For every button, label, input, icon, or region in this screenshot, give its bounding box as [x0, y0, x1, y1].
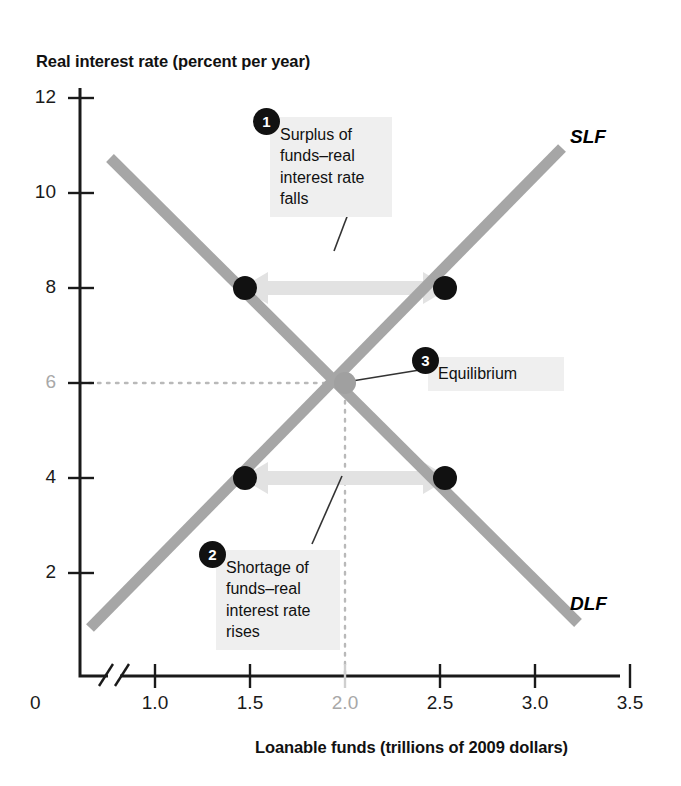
y-tick-label-2: 2 — [22, 561, 56, 583]
data-point-slf-8 — [433, 276, 457, 300]
axis-corner — [80, 652, 108, 676]
callout-badge-1: 1 — [253, 108, 280, 135]
loanable-funds-figure: Real interest rate (percent per year) Lo… — [0, 0, 681, 786]
callout-badge-3: 3 — [412, 347, 439, 374]
callout-equilibrium: Equilibrium — [428, 357, 564, 391]
y-tick-label-12: 12 — [22, 86, 56, 108]
data-point-equilibrium — [334, 372, 356, 394]
x-tick-label-2-0: 2.0 — [322, 692, 368, 714]
x-tick-label-1-5: 1.5 — [227, 692, 273, 714]
callout-2-leader-line — [312, 476, 342, 544]
curve-label-dlf: DLF — [570, 593, 607, 615]
callout-surplus: Surplus of funds–real interest rate fall… — [270, 117, 392, 217]
y-tick-label-8: 8 — [22, 276, 56, 298]
data-point-slf-4 — [233, 466, 257, 490]
x-axis-title: Loanable funds (trillions of 2009 dollar… — [255, 738, 568, 757]
x-tick-label-1-0: 1.0 — [132, 692, 178, 714]
x-tick-label-3-5: 3.5 — [607, 692, 653, 714]
y-tick-label-6: 6 — [22, 371, 56, 393]
data-point-dlf-4 — [433, 466, 457, 490]
callout-badge-2: 2 — [199, 541, 226, 568]
x-tick-label-3-0: 3.0 — [512, 692, 558, 714]
y-axis-title: Real interest rate (percent per year) — [36, 52, 310, 71]
y-tick-label-10: 10 — [22, 181, 56, 203]
data-point-dlf-8 — [233, 276, 257, 300]
curve-label-slf: SLF — [570, 126, 606, 148]
callout-shortage: Shortage of funds–real interest rate ris… — [216, 550, 340, 650]
origin-label: 0 — [30, 692, 41, 714]
y-tick-label-4: 4 — [22, 466, 56, 488]
x-tick-label-2-5: 2.5 — [417, 692, 463, 714]
